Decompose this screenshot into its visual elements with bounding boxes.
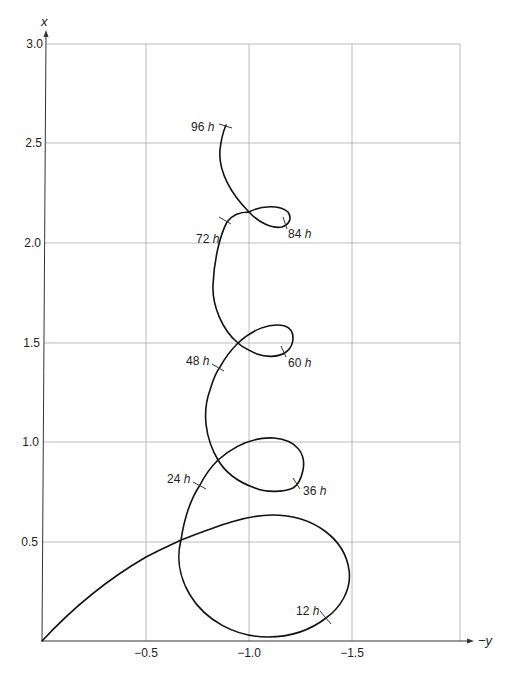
grid xyxy=(42,44,460,641)
label-24h: 24 h xyxy=(167,472,191,486)
x-axis-title: −y xyxy=(478,633,494,648)
x-tick-label: −1.0 xyxy=(237,646,261,660)
x-axis-arrow-icon xyxy=(467,639,474,644)
y-tick-label: 2.0 xyxy=(24,236,41,250)
y-axis xyxy=(42,34,46,641)
x-tick-labels: −0.5 −1.0 −1.5 xyxy=(134,646,364,660)
label-96h: 96 h xyxy=(191,120,215,134)
y-tick-labels: 0.5 1.0 1.5 2.0 2.5 3.0 xyxy=(21,37,43,549)
label-12h: 12 h xyxy=(296,604,320,618)
trajectory-chart: x −y 0.5 1.0 1.5 2.0 2.5 3.0 −0.5 −1.0 −… xyxy=(0,0,510,678)
tick-24h xyxy=(193,482,206,489)
label-36h: 36 h xyxy=(303,484,327,498)
y-tick-label: 0.5 xyxy=(21,535,38,549)
y-tick-label: 1.5 xyxy=(23,336,40,350)
trajectory-curve xyxy=(42,125,349,641)
y-axis-title: x xyxy=(40,14,48,29)
hour-ticks xyxy=(193,124,331,624)
y-tick-label: 1.0 xyxy=(22,435,39,449)
y-axis-arrow-icon xyxy=(44,30,49,37)
label-72h: 72 h xyxy=(196,232,220,246)
label-84h: 84 h xyxy=(288,227,312,241)
tick-60h xyxy=(281,346,286,357)
x-tick-label: −0.5 xyxy=(134,646,158,660)
x-tick-label: −1.5 xyxy=(340,646,364,660)
label-60h: 60 h xyxy=(288,356,312,370)
y-tick-label: 2.5 xyxy=(25,136,42,150)
y-tick-label: 3.0 xyxy=(26,37,43,51)
axes xyxy=(42,34,470,641)
label-48h: 48 h xyxy=(186,354,210,368)
